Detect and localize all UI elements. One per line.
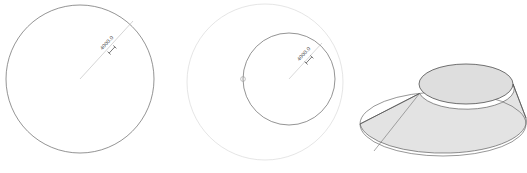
cad-viewport[interactable]: 4000.0 4000.0 — [0, 0, 527, 173]
large-circle-view[interactable]: 4000.0 — [6, 5, 154, 153]
radius-dimension-label[interactable]: 4000.0 — [99, 34, 115, 50]
radius-dimension-middle[interactable]: 4000.0 — [289, 43, 322, 79]
construction-circle-outline[interactable] — [187, 4, 343, 160]
frustum-top-face[interactable] — [419, 64, 513, 104]
radius-dimension-left[interactable]: 4000.0 — [80, 21, 133, 79]
nested-circle-view[interactable]: 4000.0 — [187, 4, 343, 160]
dimension-tick-marker — [108, 45, 117, 54]
cad-drawing-canvas[interactable]: 4000.0 4000.0 — [0, 0, 527, 173]
frustum-solid-view[interactable] — [360, 64, 526, 156]
dimension-leader-line — [80, 21, 133, 79]
radius-dimension-label[interactable]: 4000.0 — [296, 45, 312, 61]
